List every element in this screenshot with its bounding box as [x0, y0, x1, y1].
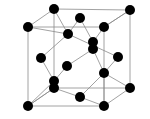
bond-line [41, 34, 68, 58]
atom-a5 [99, 22, 109, 32]
atom-a14 [49, 83, 59, 93]
atom-a17 [23, 101, 33, 111]
atom-a4 [75, 13, 85, 23]
bond-line [28, 81, 54, 106]
atom-a8 [88, 44, 98, 54]
atom-a10 [113, 52, 123, 62]
atom-a2 [125, 5, 135, 15]
bond-line [28, 27, 68, 34]
atom-a12 [99, 68, 109, 78]
diamond-crystal-diagram [0, 0, 150, 119]
atom-a16 [75, 92, 85, 102]
atom-a18 [99, 101, 109, 111]
atom-a11 [62, 61, 72, 71]
atom-a3 [23, 22, 33, 32]
cube-edge [54, 9, 130, 10]
atom-a1 [49, 4, 59, 14]
bond-line [80, 73, 104, 97]
atom-a15 [125, 83, 135, 93]
atom-a9 [36, 53, 46, 63]
atom-a6 [63, 29, 73, 39]
